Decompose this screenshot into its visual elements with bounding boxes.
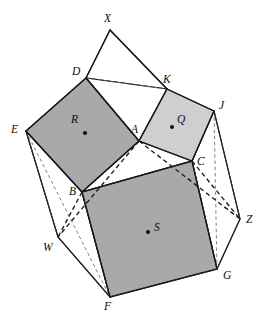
vertex-label-X: X [104, 13, 111, 25]
vertex-label-D: D [72, 66, 80, 78]
center-label-Q: Q [177, 114, 185, 126]
vertex-label-E: E [11, 124, 18, 136]
vertex-label-C: C [197, 156, 205, 168]
vertex-label-F: F [104, 301, 111, 313]
vertex-label-B: B [69, 186, 76, 198]
vertex-label-G: G [223, 270, 231, 282]
vertex-label-Z: Z [246, 214, 252, 226]
geometry-figure: X D K J E A C B Z W F G R Q S [0, 0, 265, 330]
center-dot-Q [170, 125, 174, 129]
center-dot-R [83, 131, 87, 135]
center-label-S: S [154, 222, 160, 234]
vertex-label-A: A [131, 124, 138, 136]
vertex-label-K: K [163, 74, 171, 86]
vertex-label-J: J [219, 100, 224, 112]
center-label-R: R [71, 114, 78, 126]
vertex-label-W: W [43, 242, 53, 254]
center-dot-S [146, 230, 150, 234]
